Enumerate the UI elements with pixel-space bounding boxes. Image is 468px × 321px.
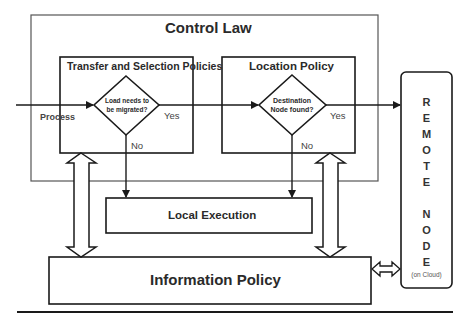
remote-letter: M	[422, 126, 431, 142]
node-letter: D	[423, 238, 431, 254]
local-execution-title: Local Execution	[168, 209, 256, 221]
load-migration-question: Load needs to be migrated?	[101, 96, 153, 114]
remote-letter: R	[423, 94, 431, 110]
node-letter: N	[423, 206, 431, 222]
remote-letter: O	[422, 142, 431, 158]
yes-label-location: Yes	[330, 110, 346, 121]
on-cloud-label: (on Cloud)	[411, 271, 441, 278]
remote-letter: E	[423, 110, 430, 126]
right-bidirectional-arrow	[316, 153, 345, 257]
control-law-title: Control Law	[165, 19, 252, 36]
node-letter: E	[423, 254, 430, 270]
remote-letter: T	[423, 158, 430, 174]
info-remote-bidirectional-arrow	[372, 262, 400, 276]
transfer-selection-title: Transfer and Selection Policies	[67, 60, 222, 72]
no-label-transfer: No	[131, 140, 143, 151]
remote-node-label: R E M O T E N O D E (on Cloud)	[401, 72, 452, 288]
location-policy-title: Location Policy	[249, 60, 334, 72]
left-bidirectional-arrow	[67, 153, 96, 257]
process-label: Process	[40, 112, 75, 122]
information-policy-title: Information Policy	[150, 271, 281, 288]
no-label-location: No	[301, 140, 313, 151]
remote-letter: E	[423, 174, 430, 190]
yes-label-transfer: Yes	[164, 110, 180, 121]
destination-found-question: Destination Node found?	[266, 96, 318, 114]
node-letter: O	[422, 222, 431, 238]
